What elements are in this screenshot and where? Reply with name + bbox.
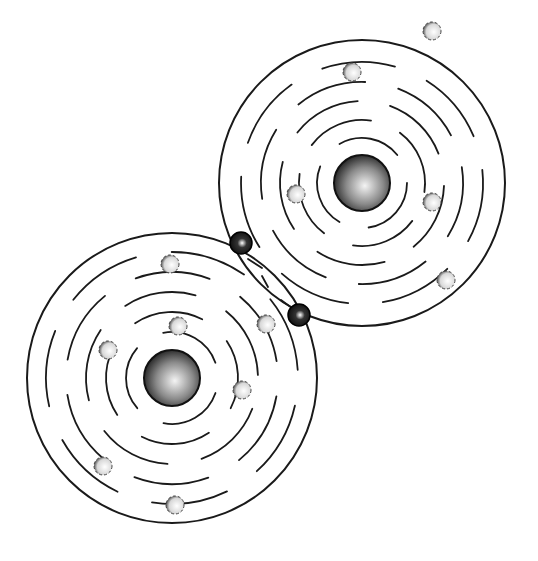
orbit-dash <box>297 101 357 132</box>
orbit-dash <box>152 491 227 504</box>
orbit-dash <box>400 133 425 192</box>
orbit-dash <box>172 252 244 275</box>
electron <box>423 22 441 40</box>
bond-dash <box>248 259 292 308</box>
lower-left-atom <box>27 233 317 523</box>
orbit-dash <box>398 89 451 136</box>
electron <box>161 255 179 273</box>
orbit-dash <box>248 85 292 143</box>
orbit-dash <box>273 231 326 278</box>
orbit-dash <box>312 120 371 145</box>
electron <box>94 457 112 475</box>
upper-right-atom <box>219 22 505 326</box>
orbit-dash <box>448 167 463 236</box>
nucleus <box>334 155 390 211</box>
covalent-bond-diagram <box>0 0 538 561</box>
electron <box>287 185 305 203</box>
orbit-dash <box>227 341 238 408</box>
orbit-dash <box>202 409 253 459</box>
electron <box>257 315 275 333</box>
orbit-dash <box>135 312 202 323</box>
orbit-dash <box>46 331 55 406</box>
orbit-dash <box>468 170 483 241</box>
orbit-dash <box>86 330 101 400</box>
orbit-dash <box>226 311 258 375</box>
orbit-dash <box>67 395 104 459</box>
nucleus <box>144 350 200 406</box>
electron <box>233 381 251 399</box>
orbit-dash <box>239 396 276 460</box>
shared-electron <box>230 232 252 254</box>
electron <box>437 271 455 289</box>
orbit-dash <box>142 433 209 444</box>
orbit-dash <box>134 477 208 484</box>
orbit-dash <box>383 269 448 302</box>
orbit-dash <box>340 138 398 155</box>
orbit-dash <box>257 406 295 472</box>
orbit-dash <box>126 348 137 408</box>
orbit-dash <box>104 431 167 464</box>
orbit-dash <box>317 252 384 265</box>
orbit-dash <box>282 274 348 304</box>
orbit-dash <box>427 81 474 137</box>
orbit-dash <box>353 221 412 246</box>
orbit-dash <box>299 174 324 233</box>
electron <box>99 341 117 359</box>
orbit-dash <box>261 130 276 199</box>
electron <box>166 496 184 514</box>
electron <box>423 193 441 211</box>
shared-electron <box>288 304 310 326</box>
electron <box>343 63 361 81</box>
orbit-dash <box>125 292 195 306</box>
electron <box>169 317 187 335</box>
